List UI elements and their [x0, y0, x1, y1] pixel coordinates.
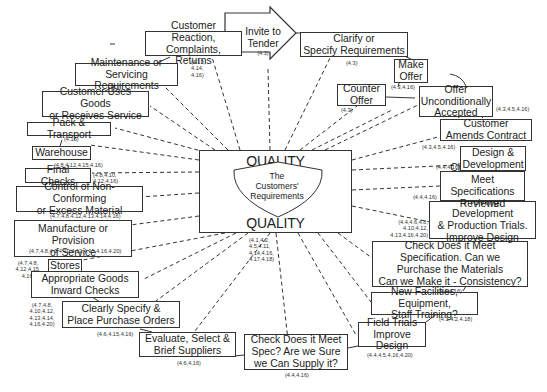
- invite-to-tender-label: Invite to Tender: [238, 26, 288, 49]
- ref-check-supply: (4.4,4.16): [285, 372, 309, 378]
- quality-cycle-diagram: Invite to Tender (4.3) QUALITY The Custo…: [0, 0, 547, 392]
- ref-amends-contract: (4.3,4.5,4.16): [422, 144, 455, 150]
- node-offer-accepted: Offer Unconditionally Accepted: [419, 86, 493, 117]
- node-purchase-orders: Clearly Specify & Place Purchase Orders: [62, 301, 180, 328]
- ref-goods-inward: (4.7,4.8, 4.10,4.12, 4.13,4.14, 4.16,4.2…: [25, 302, 59, 328]
- node-customer-uses: Customer Uses Goods or Receives Service: [42, 91, 149, 117]
- node-field-trials: Field Trials Improve Design: [358, 322, 426, 347]
- node-control-nonconforming: Control of Non-Conforming or Excess Mate…: [16, 186, 143, 212]
- node-amends-contract: Customer Amends Contract: [440, 119, 532, 141]
- ref-counter-offer: (4.3): [341, 107, 353, 113]
- node-make-offer: Make Offer: [394, 59, 428, 83]
- ref-check-spec-reviewed: (4.4,4.16): [413, 194, 437, 200]
- ref-make-offer: (4.3,4.16): [391, 84, 415, 90]
- ref-pack-transport: (4.15): [64, 136, 79, 142]
- ref-new-facilities: (4.1,4.2,4.18): [439, 316, 472, 322]
- ref-offer-accepted: (4.3,4.5,4.16): [496, 106, 529, 112]
- quality-bottom-label: QUALITY: [200, 215, 351, 231]
- center-quality-box: QUALITY The Customers' Requirements QUAL…: [199, 150, 352, 233]
- node-evaluate-suppliers: Evaluate, Select & Brief Suppliers: [139, 332, 236, 357]
- node-check-supply: Check Does it Meet Spec? Are we Sure we …: [244, 334, 348, 370]
- ref-check-consistency: (4.4,4.16): [438, 288, 462, 294]
- node-new-facilities: New Facilities, Equipment, Staff Trainin…: [371, 292, 478, 315]
- ref-clarify: (4.3): [346, 60, 358, 66]
- ref-field-trials: (4.4,4.5,4.16,4.20): [367, 352, 413, 358]
- ref-proving: (4.4,4.6,4.8, 4.10,4.12, 4.13,4.16,4.20): [384, 219, 428, 238]
- ref-purchase-orders: (4.6,4.15,4.16): [97, 331, 133, 337]
- node-counter-offer: Counter Offer: [337, 84, 386, 106]
- center-ref: (4.1,4.2, 4.5,4.11, 4.14,4.16, 4.17,4.18…: [249, 237, 274, 263]
- customers-requirements-label: The Customers' Requirements: [236, 172, 318, 202]
- node-check-spec-reviewed: Check Does it Meet Specifications Review…: [440, 171, 525, 201]
- node-warehouse: Warehouse: [32, 146, 91, 160]
- node-check-consistency: Check Does it Meet Specification. Can we…: [372, 241, 528, 287]
- ref-evaluate-suppliers: (4.6,4.16): [177, 360, 201, 366]
- node-design-development: Design & Development: [460, 146, 526, 171]
- ref-manufacture: (4.7,4.8,4.9,4.10,4.12,4.15,4.16,4.20): [29, 248, 121, 254]
- node-pack-transport: Pack & Transport: [27, 122, 111, 136]
- ref-design-development: (4.4,4.16): [436, 164, 460, 170]
- ref-control-nonconforming: (4.7,4.8,4.12,4.13,4.14,4.16): [50, 213, 121, 219]
- node-clarify: Clarify or Specify Requirements: [300, 32, 408, 57]
- ref-customer-reaction: (4.13, 4.14, 4.16): [191, 59, 205, 78]
- node-goods-inward: Appropriate Goods Inward Checks: [31, 271, 139, 298]
- node-customer-reaction: Customer Reaction, Complaints, Returns: [145, 31, 242, 56]
- node-maintenance: Maintenance or Servicing Requirements: [75, 63, 178, 86]
- invite-to-tender-ref: (4.3): [256, 50, 270, 56]
